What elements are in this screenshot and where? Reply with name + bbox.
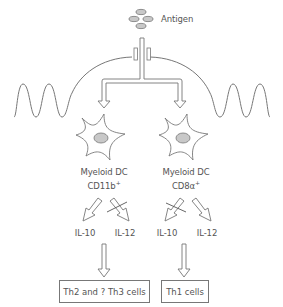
cell2-marker-sup: +	[195, 179, 200, 186]
dendritic-cell-cd8a-icon	[159, 114, 208, 160]
dendritic-cell-cd11b-icon	[76, 114, 125, 160]
cell2-il10-label: IL-10	[157, 228, 177, 238]
cell1-marker: CD11b+	[87, 179, 120, 191]
cell1-il10-label: IL-10	[75, 228, 95, 238]
receptor-left-icon	[134, 48, 138, 60]
epithelium-right-icon	[150, 57, 270, 117]
cell2-marker-text: CD8α	[172, 181, 195, 191]
cell1-marker-sup: +	[116, 179, 121, 186]
outcome-th2-th3-box: Th2 and ? Th3 cells	[59, 280, 150, 303]
cell1-il12-label: IL-12	[115, 228, 135, 238]
cell2-marker: CD8α+	[172, 179, 200, 191]
outcome-arrow-right-icon	[178, 244, 190, 277]
il10-arrow-cell1-icon	[83, 198, 102, 221]
il12-arrow-cell1-blocked-icon	[107, 198, 129, 221]
antigen-label: Antigen	[161, 14, 193, 24]
antigen-uptake-arrows-icon	[98, 38, 186, 108]
antigen-particles-icon	[129, 9, 153, 28]
il12-arrow-cell2-icon	[192, 198, 211, 221]
cell2-il12-label: IL-12	[197, 228, 217, 238]
outcome-th1-box: Th1 cells	[161, 280, 209, 303]
cell2-name: Myeloid DC	[162, 167, 209, 177]
outcome-arrow-left-icon	[98, 244, 110, 277]
cell1-marker-text: CD11b	[87, 181, 115, 191]
il10-arrow-cell2-blocked-icon	[165, 198, 186, 221]
receptor-right-icon	[147, 48, 151, 60]
epithelium-left-icon	[14, 57, 132, 117]
cell1-name: Myeloid DC	[80, 167, 127, 177]
diagram-canvas	[0, 0, 283, 307]
